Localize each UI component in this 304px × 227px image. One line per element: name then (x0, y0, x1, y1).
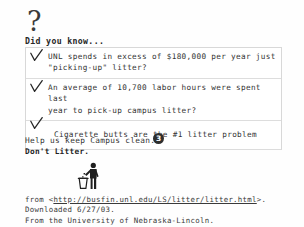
citation-prefix: from < (25, 195, 53, 204)
citation-suffix: >. (257, 195, 266, 204)
checkmark-cell (26, 48, 48, 78)
checkmark-icon (30, 49, 43, 62)
page-title: Did you know... (25, 36, 104, 46)
message-line-2: Don't Litter. (25, 146, 155, 157)
source-url[interactable]: http://busfin.unl.edu/LS/litter/litter.h… (53, 195, 256, 204)
table-row: UNL spends in excess of $180,000 per yea… (26, 48, 281, 79)
scanned-flyer-page: ? Did you know... UNL spends in excess o… (0, 0, 304, 227)
message-line-1: Help us keep Campus clean. (25, 135, 155, 146)
table-row: An average of 10,700 labor hours were sp… (26, 79, 281, 121)
fact-text: An average of 10,700 labor hours were sp… (48, 79, 281, 120)
question-mark-glyph: ? (27, 8, 41, 35)
citation-line-source: from <http://busfin.unl.edu/LS/litter/li… (25, 195, 266, 205)
checkmark-cell (26, 79, 48, 120)
campaign-message: Help us keep Campus clean. Don't Litter. (25, 135, 155, 157)
citation-footer: from <http://busfin.unl.edu/LS/litter/li… (25, 195, 266, 226)
step-badge-3: 3 (153, 133, 164, 144)
citation-line-institution: From the University of Nebraska-Lincoln. (25, 216, 266, 226)
person-throwing-litter-in-bin-icon (76, 162, 104, 192)
checkmark-icon (30, 80, 43, 93)
checkmark-icon (30, 117, 43, 130)
fact-text: UNL spends in excess of $180,000 per yea… (48, 48, 281, 78)
citation-line-downloaded: Downloaded 6/27/03. (25, 205, 266, 215)
